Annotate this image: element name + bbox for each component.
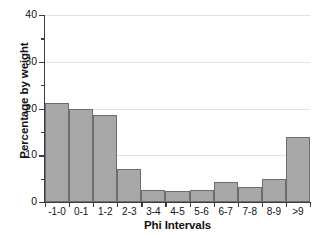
y-axis-tick-label: 30 (0, 55, 37, 67)
x-axis-tick-label: >9 (286, 206, 310, 217)
bar (69, 109, 93, 202)
y-axis-tick-label: 40 (0, 8, 37, 20)
x-axis-tick-label: 1-2 (93, 206, 117, 217)
x-axis-title: Phi Intervals (45, 219, 310, 231)
y-axis-tick (39, 62, 44, 63)
x-axis-tick-label: 4-5 (165, 206, 189, 217)
x-axis-tick-label: 0-1 (69, 206, 93, 217)
y-axis-tick (39, 109, 44, 110)
bar (214, 182, 238, 202)
bar (165, 191, 189, 202)
plot-area (45, 15, 310, 202)
x-axis-tick-label: 8-9 (262, 206, 286, 217)
bar (93, 115, 117, 202)
y-axis-minor-tick (41, 38, 45, 39)
y-axis-tick-label: 0 (0, 195, 37, 207)
y-axis-minor-tick (41, 179, 45, 180)
bar-chart: Percentage by weight 010203040 -1-00-11-… (0, 0, 316, 238)
bar (190, 190, 214, 202)
x-axis-tick-label: 5-6 (190, 206, 214, 217)
x-axis-tick-label: -1-0 (45, 206, 69, 217)
y-axis-tick (39, 15, 44, 16)
x-axis-tick-label: 6-7 (214, 206, 238, 217)
bar (141, 190, 165, 202)
bar (262, 179, 286, 202)
x-axis-tick-label: 7-8 (238, 206, 262, 217)
y-axis-minor-tick (41, 132, 45, 133)
x-axis-tick (310, 202, 311, 207)
y-axis-tick-label: 10 (0, 148, 37, 160)
y-axis-minor-tick (41, 85, 45, 86)
y-axis-tick (39, 155, 44, 156)
y-axis-tick (39, 202, 44, 203)
x-axis-tick-label: 3-4 (141, 206, 165, 217)
y-axis-tick-label: 20 (0, 102, 37, 114)
bar (238, 187, 262, 202)
bar (45, 103, 69, 202)
bar (286, 137, 310, 202)
bar (117, 169, 141, 202)
bars-layer (45, 15, 310, 202)
x-axis-tick-label: 2-3 (117, 206, 141, 217)
